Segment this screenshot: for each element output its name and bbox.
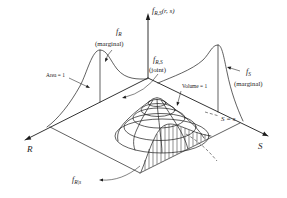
conditional-leader bbox=[101, 166, 140, 180]
conditional-arrow-icon bbox=[99, 178, 103, 181]
vertical-axis-label: fR,S(r, s) bbox=[152, 6, 175, 16]
area-arrow-icon bbox=[86, 85, 90, 88]
s-equals-leader bbox=[205, 112, 219, 116]
hatch-lines bbox=[145, 124, 205, 170]
vertical-axis-arrow-icon bbox=[146, 13, 150, 20]
marginal-r-caption: (marginal) bbox=[95, 40, 124, 48]
conditional-slice bbox=[141, 112, 219, 172]
base-front-right-edge bbox=[140, 123, 240, 173]
volume-label: Volume = 1 bbox=[182, 83, 207, 89]
pdf-diagram: fR,S(r, s) fR (marginal) fR,S (joint) fS… bbox=[0, 0, 287, 198]
base-front-left-edge bbox=[50, 127, 140, 173]
joint-surface bbox=[115, 98, 209, 154]
conditional-curve bbox=[141, 124, 211, 172]
r-axis-label: R bbox=[26, 144, 33, 154]
area-label: Area = 1 bbox=[46, 72, 65, 78]
joint-label: fR,S bbox=[153, 55, 163, 65]
marginal-s-arrow-icon bbox=[227, 67, 231, 70]
volume-arrow-icon bbox=[177, 102, 180, 106]
s-axis-label: S bbox=[258, 141, 263, 151]
marginal-r-arrow-icon bbox=[105, 58, 108, 62]
marginal-s-label: fS bbox=[246, 67, 251, 77]
meridian-left bbox=[134, 100, 153, 150]
labels: fR,S(r, s) fR (marginal) fR,S (joint) fS… bbox=[26, 6, 263, 185]
area-leader bbox=[69, 78, 88, 87]
joint-caption: (joint) bbox=[149, 66, 166, 74]
r-axis-arrow-icon bbox=[25, 136, 31, 141]
conditional-label: fR|s bbox=[72, 175, 81, 185]
joint-arrow-icon bbox=[122, 95, 126, 98]
marginal-r-label: fR bbox=[116, 27, 122, 37]
axes bbox=[25, 13, 268, 173]
marginal-s-caption: (marginal) bbox=[234, 80, 263, 88]
s-equals-label: S = s bbox=[221, 115, 236, 123]
